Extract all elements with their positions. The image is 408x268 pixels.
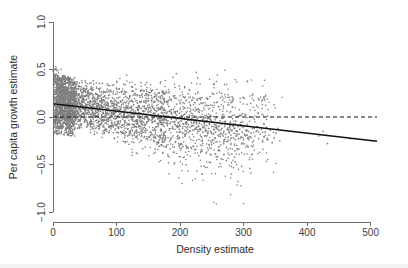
data-point [254, 121, 256, 123]
data-point [176, 153, 178, 155]
data-point [155, 110, 157, 112]
data-point [262, 104, 264, 106]
data-point [183, 141, 185, 143]
data-point [191, 82, 193, 84]
data-point [132, 109, 134, 111]
data-point [135, 130, 137, 132]
data-point [170, 143, 172, 145]
data-point [106, 130, 108, 132]
data-point [229, 99, 231, 101]
data-point [125, 96, 127, 98]
data-point [55, 109, 57, 111]
data-point [101, 99, 103, 101]
data-point [135, 125, 137, 127]
data-point [249, 157, 251, 159]
data-point [232, 97, 234, 99]
data-point [251, 79, 253, 81]
data-point [153, 136, 155, 138]
data-point [247, 81, 249, 83]
data-point [169, 141, 171, 143]
data-point [61, 108, 63, 110]
data-point [250, 145, 252, 147]
data-point [184, 156, 186, 158]
data-point [128, 103, 130, 105]
data-point [194, 129, 196, 131]
data-point [165, 131, 167, 133]
data-point [236, 164, 238, 166]
data-point [103, 130, 105, 132]
data-point [101, 98, 103, 100]
data-point [199, 123, 201, 125]
data-point [172, 126, 174, 128]
data-point [126, 74, 128, 76]
data-point [216, 81, 218, 83]
data-point [68, 134, 70, 136]
data-point [196, 126, 198, 128]
data-point [175, 119, 177, 121]
data-point [160, 118, 162, 120]
data-point [208, 123, 210, 125]
data-point [182, 163, 184, 165]
data-point [61, 111, 63, 113]
data-point [225, 137, 227, 139]
data-point [261, 108, 263, 110]
data-point [156, 143, 158, 145]
data-point [77, 104, 79, 106]
data-point [132, 101, 134, 103]
data-point [221, 104, 223, 106]
data-point [93, 126, 95, 128]
data-point [99, 100, 101, 102]
data-point [63, 126, 65, 128]
data-point [79, 126, 81, 128]
data-point [239, 129, 241, 131]
data-point [66, 111, 68, 113]
data-point [249, 95, 251, 97]
data-point [158, 113, 160, 115]
data-point [199, 110, 201, 112]
data-point [123, 126, 125, 128]
data-point [114, 121, 116, 123]
data-point [179, 144, 181, 146]
data-point [222, 159, 224, 161]
data-point [192, 139, 194, 141]
data-point [194, 110, 196, 112]
data-point [185, 123, 187, 125]
data-point [149, 147, 151, 149]
data-point [196, 83, 198, 85]
data-point [174, 124, 176, 126]
data-point [146, 87, 148, 89]
data-point [154, 113, 156, 115]
data-point [181, 115, 183, 117]
data-point [227, 97, 229, 99]
data-point [196, 170, 198, 172]
data-point [221, 93, 223, 95]
data-point [63, 91, 65, 93]
data-point [185, 164, 187, 166]
data-point [56, 96, 58, 98]
data-point [184, 126, 186, 128]
data-point [61, 132, 63, 134]
data-point [71, 79, 73, 81]
data-point [267, 98, 269, 100]
data-point [144, 95, 146, 97]
data-point [84, 122, 86, 124]
data-point [204, 109, 206, 111]
data-point [215, 173, 217, 175]
data-point [155, 137, 157, 139]
data-point [106, 83, 108, 85]
data-point [227, 149, 229, 151]
data-point [86, 86, 88, 88]
data-point [129, 96, 131, 98]
data-point [68, 86, 70, 88]
data-point [267, 109, 269, 111]
data-point [161, 92, 163, 94]
data-point [180, 156, 182, 158]
data-point [268, 134, 270, 136]
data-point [264, 131, 266, 133]
data-point [75, 104, 77, 106]
data-point [209, 153, 211, 155]
data-point [195, 121, 197, 123]
data-point [113, 132, 115, 134]
data-point [242, 127, 244, 129]
data-point [181, 170, 183, 172]
